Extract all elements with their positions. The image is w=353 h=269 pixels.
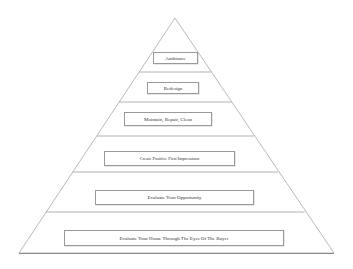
level-maintain-repair-clean: Maintain, Repair, Clean — [124, 112, 212, 126]
level-label: Evaluate Your Opportunity — [147, 195, 201, 200]
level-label: Ambiance — [165, 56, 186, 61]
level-label: Create Positive First Impressions — [140, 156, 200, 161]
level-label: Maintain, Repair, Clean — [144, 117, 192, 122]
level-evaluate-your-home: Evaluate Your Home Through The Eyes Of T… — [64, 230, 284, 246]
level-redesign: Redesign — [147, 82, 199, 94]
pyramid-outline — [0, 0, 353, 269]
level-ambiance: Ambiance — [153, 52, 198, 64]
level-label: Redesign — [164, 86, 183, 91]
level-label: Evaluate Your Home Through The Eyes Of T… — [119, 236, 228, 241]
level-evaluate-your-opportunity: Evaluate Your Opportunity — [95, 190, 254, 205]
level-create-positive-first-impressions: Create Positive First Impressions — [104, 151, 235, 166]
